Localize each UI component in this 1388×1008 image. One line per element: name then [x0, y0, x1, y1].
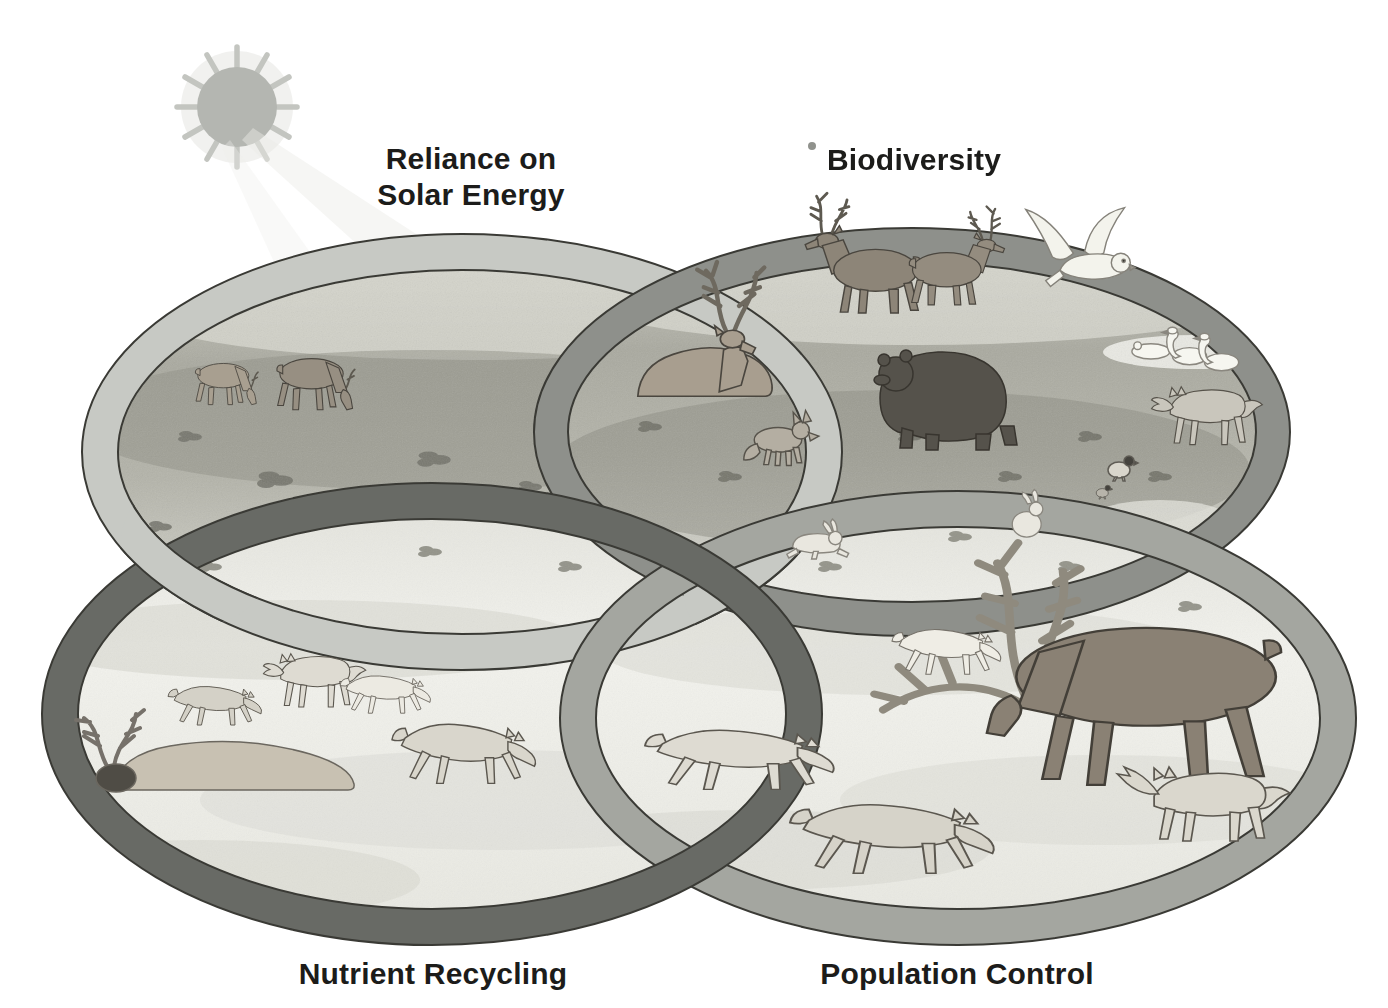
- label-nutrient-recycling: Nutrient Recycling: [299, 956, 568, 992]
- label-reliance-solar-energy: Reliance on Solar Energy: [377, 141, 564, 213]
- sun-disc: [197, 67, 277, 147]
- ecosystem-venn-diagram: [0, 0, 1388, 1008]
- label-biodiversity: Biodiversity: [827, 142, 1001, 178]
- ink-speck: [808, 142, 816, 150]
- label-population-control: Population Control: [820, 956, 1094, 992]
- label-line: Reliance on: [377, 141, 564, 177]
- label-line: Solar Energy: [377, 177, 564, 213]
- ecosystem-venn-figure: Reliance on Solar Energy Biodiversity Nu…: [0, 0, 1388, 1008]
